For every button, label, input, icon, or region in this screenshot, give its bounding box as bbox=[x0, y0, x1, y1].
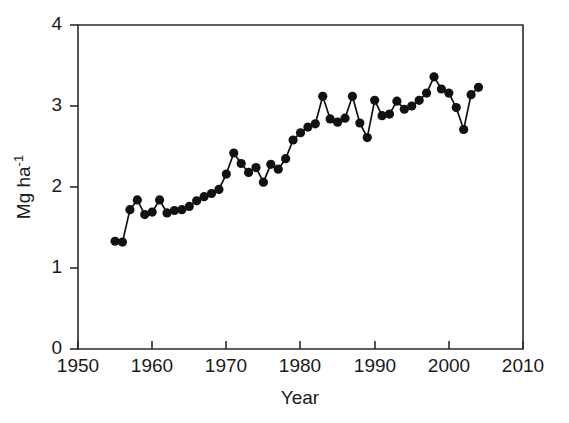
y-tick-label-4: 4 bbox=[51, 13, 62, 34]
data-point bbox=[407, 101, 416, 110]
data-point bbox=[288, 135, 297, 144]
data-point bbox=[452, 103, 461, 112]
data-point bbox=[444, 88, 453, 97]
data-point bbox=[214, 185, 223, 194]
data-point bbox=[148, 208, 157, 217]
data-point bbox=[340, 114, 349, 123]
data-point bbox=[318, 92, 327, 101]
data-point bbox=[311, 119, 320, 128]
data-point bbox=[415, 96, 424, 105]
y-tick-label-2: 2 bbox=[51, 175, 62, 196]
data-point bbox=[251, 163, 260, 172]
data-point bbox=[370, 96, 379, 105]
x-tick-label-2010: 2010 bbox=[502, 355, 544, 376]
data-point bbox=[296, 128, 305, 137]
chart-figure: 4 3 2 1 0 1950 1960 1970 1980 1990 2000 … bbox=[0, 0, 569, 423]
y-tick-label-1: 1 bbox=[51, 256, 62, 277]
data-point bbox=[385, 110, 394, 119]
x-axis-title: Year bbox=[281, 387, 320, 408]
data-point bbox=[355, 118, 364, 127]
data-point bbox=[348, 92, 357, 101]
data-point bbox=[274, 165, 283, 174]
data-point bbox=[237, 159, 246, 168]
x-tick-label-1990: 1990 bbox=[354, 355, 396, 376]
data-point bbox=[363, 133, 372, 142]
data-point bbox=[429, 72, 438, 81]
data-point bbox=[229, 148, 238, 157]
data-point bbox=[133, 195, 142, 204]
y-axis-title-exponent: -1 bbox=[11, 155, 26, 167]
data-point bbox=[422, 88, 431, 97]
data-point bbox=[222, 169, 231, 178]
data-point bbox=[185, 202, 194, 211]
data-point bbox=[281, 154, 290, 163]
data-point bbox=[118, 237, 127, 246]
x-tick-label-1980: 1980 bbox=[279, 355, 321, 376]
x-tick-label-1970: 1970 bbox=[205, 355, 247, 376]
data-point bbox=[459, 125, 468, 134]
x-tick-label-2000: 2000 bbox=[428, 355, 470, 376]
y-tick-label-3: 3 bbox=[51, 94, 62, 115]
line-chart: 4 3 2 1 0 1950 1960 1970 1980 1990 2000 … bbox=[0, 0, 569, 423]
data-point bbox=[155, 195, 164, 204]
x-tick-label-1960: 1960 bbox=[131, 355, 173, 376]
x-tick-label-1950: 1950 bbox=[57, 355, 99, 376]
data-point bbox=[125, 205, 134, 214]
data-point bbox=[466, 90, 475, 99]
data-point bbox=[474, 83, 483, 92]
y-axis-title-base: Mg ha bbox=[13, 166, 34, 219]
data-point bbox=[392, 97, 401, 106]
data-point bbox=[259, 178, 268, 187]
